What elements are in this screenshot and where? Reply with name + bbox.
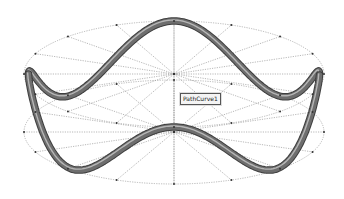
construction-guides [24, 21, 324, 184]
path-curve-label[interactable]: PathCurve1 [180, 93, 221, 105]
path-curve-tube[interactable] [28, 20, 320, 170]
3d-viewport[interactable]: PathCurve1 [0, 0, 344, 199]
path-curve-scene[interactable] [0, 0, 344, 199]
